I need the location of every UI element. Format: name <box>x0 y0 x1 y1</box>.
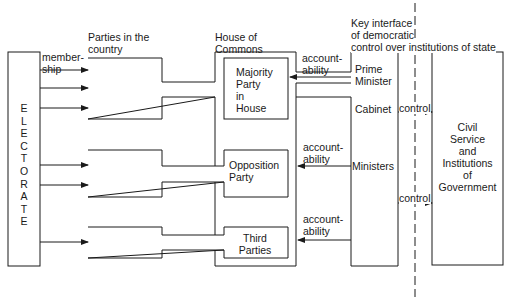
header-line: Key interface <box>351 17 496 29</box>
label-line: Opposition <box>229 159 279 171</box>
label-line: ability <box>303 153 343 165</box>
label-line: Party <box>229 171 279 183</box>
label-line: account- <box>303 213 343 225</box>
control-label: control <box>399 102 431 114</box>
accountability-label: account- ability <box>303 141 343 165</box>
control-label: control <box>399 192 431 204</box>
majority-party-label: Majority Party in House <box>236 66 273 114</box>
header-parties-in-country: Parties in the country <box>88 31 149 55</box>
label-line: Institutions <box>432 157 503 169</box>
electorate-label: E L E C T O R A T E <box>17 102 31 228</box>
header-line: Commons <box>215 43 263 55</box>
label-line: account- <box>302 52 342 64</box>
header-line: country <box>88 43 149 55</box>
label-line: Service <box>432 133 503 145</box>
label-line: account- <box>303 141 343 153</box>
header-line: Parties in the <box>88 31 149 43</box>
header-house-of-commons: House of Commons <box>215 31 263 55</box>
header-line: control over institutions of state <box>351 41 496 53</box>
label-line: Civil <box>432 121 503 133</box>
label-line: Prime <box>355 63 392 75</box>
label-line: Minister <box>355 75 392 87</box>
label-line: ship <box>42 63 84 75</box>
accountability-label: account- ability <box>303 213 343 237</box>
cabinet-label: Cabinet <box>355 103 391 115</box>
label-line: House <box>236 102 273 114</box>
label-line: Government <box>432 181 503 193</box>
membership-label: member- ship <box>42 51 84 75</box>
country-party-3 <box>88 227 224 258</box>
header-line: House of <box>215 31 263 43</box>
prime-minister-label: Prime Minister <box>355 63 392 87</box>
label-line: Majority <box>236 66 273 78</box>
label-line: ability <box>303 225 343 237</box>
third-parties-label: Third Parties <box>234 232 276 256</box>
opposition-party-label: Opposition Party <box>229 159 279 183</box>
label-line: in <box>236 90 273 102</box>
accountability-label: account- ability <box>302 52 342 76</box>
label-line: ability <box>302 64 342 76</box>
ministers-label: Ministers <box>352 160 394 172</box>
label-line: Party <box>236 78 273 90</box>
country-party-2 <box>88 150 224 197</box>
label-line: Third <box>234 232 276 244</box>
label-line: Parties <box>234 244 276 256</box>
civil-service-label: Civil Service and Institutions of Govern… <box>432 121 503 193</box>
label-line: and <box>432 145 503 157</box>
label-line: of <box>432 169 503 181</box>
label-line: member- <box>42 51 84 63</box>
header-line: of democratic <box>351 29 496 41</box>
header-key-interface: Key interface of democratic control over… <box>351 17 496 53</box>
